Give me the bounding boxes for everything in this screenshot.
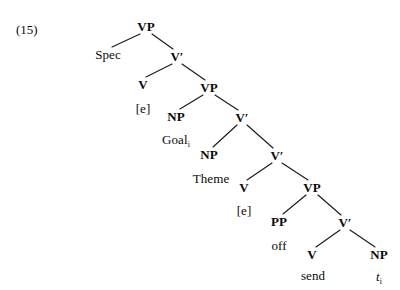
tree-node-label: V	[138, 77, 148, 92]
tree-edge-vbar2-to-np2	[213, 125, 237, 147]
tree-edge-vp1-to-spec	[112, 34, 140, 47]
tree-node-label: NP	[200, 147, 218, 162]
tree-node-subscript: i	[188, 139, 190, 148]
tree-node-label: V′	[270, 148, 283, 163]
tree-edge-vbar3-to-v2	[247, 163, 272, 180]
tree-node-label: NP	[167, 109, 185, 124]
tree-node-vbar1: V′	[170, 50, 183, 63]
tree-node-label: NP	[370, 247, 388, 262]
tree-node-label: [e]	[136, 101, 151, 116]
tree-edge-vbar4-to-v3	[316, 230, 340, 247]
tree-node-v2: V	[239, 181, 249, 194]
tree-node-label: send	[301, 268, 325, 283]
syntax-tree-figure: (15) VPSpecV′V[e]VPNPGoaliV′NPThemeV′V[e…	[0, 0, 400, 290]
tree-branch-lines	[0, 0, 400, 290]
tree-node-label: [e]	[237, 203, 252, 218]
tree-node-send: send	[301, 269, 325, 282]
tree-node-label: Spec	[95, 47, 121, 62]
tree-node-v1: V	[138, 78, 148, 91]
tree-node-label: V′	[170, 49, 183, 64]
tree-edge-vp2-to-np1	[180, 95, 203, 109]
tree-edge-vbar1-to-vp2	[182, 64, 205, 80]
tree-node-label: V′	[338, 215, 351, 230]
tree-node-vbar3: V′	[270, 149, 283, 162]
tree-node-v3: V	[307, 248, 317, 261]
tree-node-vbar2: V′	[235, 111, 248, 124]
tree-node-subscript: i	[380, 276, 382, 285]
tree-node-goal: Goali	[162, 133, 190, 146]
tree-node-label: off	[271, 238, 286, 253]
tree-edge-vp2-to-vbar2	[215, 95, 238, 110]
tree-node-vp3: VP	[303, 181, 321, 194]
tree-edge-vbar3-to-vp3	[282, 163, 308, 180]
tree-node-spec: Spec	[95, 48, 121, 61]
tree-node-e1: [e]	[136, 102, 151, 115]
tree-node-label: V	[307, 247, 317, 262]
tree-node-label: Theme	[193, 171, 230, 186]
tree-node-off: off	[271, 239, 286, 252]
tree-node-label: VP	[137, 19, 155, 34]
tree-node-label: VP	[200, 80, 218, 95]
tree-node-label: V′	[235, 110, 248, 125]
tree-node-label: VP	[303, 180, 321, 195]
tree-edge-vp3-to-pp	[283, 195, 306, 214]
tree-node-label: V	[239, 180, 249, 195]
tree-edge-vp1-to-vbar1	[152, 34, 173, 49]
tree-node-label: Goal	[162, 132, 188, 147]
tree-node-np3: NP	[370, 248, 388, 261]
tree-edge-vbar4-to-np3	[350, 230, 375, 247]
tree-edge-vbar1-to-v1	[146, 64, 172, 77]
tree-node-label: PP	[271, 214, 287, 229]
tree-node-e2: [e]	[237, 204, 252, 217]
tree-node-pp: PP	[271, 215, 287, 228]
tree-node-np1: NP	[167, 110, 185, 123]
tree-node-theme: Theme	[193, 172, 230, 185]
tree-edge-vp3-to-vbar4	[318, 195, 341, 215]
tree-edge-vbar2-to-vbar3	[247, 125, 273, 148]
tree-node-vp1: VP	[137, 20, 155, 33]
tree-node-np2: NP	[200, 148, 218, 161]
tree-node-trace: ti	[376, 270, 382, 283]
tree-node-vbar4: V′	[338, 216, 351, 229]
tree-node-vp2: VP	[200, 81, 218, 94]
